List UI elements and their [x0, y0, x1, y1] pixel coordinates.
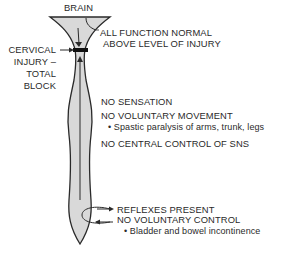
above-injury-line1: ALL FUNCTION NORMAL [100, 27, 212, 38]
no-central-control-label: NO CENTRAL CONTROL OF SNS [101, 138, 249, 149]
injury-label-line2: INJURY – [14, 56, 56, 67]
injury-label-line3: TOTAL [26, 68, 56, 79]
incontinence-bullet: • Bladder and bowel incontinence [124, 226, 260, 237]
brain-label: BRAIN [64, 2, 93, 13]
no-voluntary-control-label: NO VOLUNTARY CONTROL [117, 214, 240, 225]
no-voluntary-movement-label: NO VOLUNTARY MOVEMENT [101, 110, 233, 121]
reflex-out-arrow-icon [109, 207, 114, 212]
reflex-in-arrow-icon [95, 220, 100, 225]
injury-label-line1: CERVICAL [8, 44, 56, 55]
above-injury-line2: ABOVE LEVEL OF INJURY [103, 38, 221, 49]
injury-label-line4: BLOCK [24, 80, 56, 91]
no-sensation-label: NO SENSATION [101, 96, 172, 107]
injury-block [73, 48, 88, 52]
spastic-paralysis-bullet: • Spastic paralysis of arms, trunk, legs [108, 122, 264, 133]
